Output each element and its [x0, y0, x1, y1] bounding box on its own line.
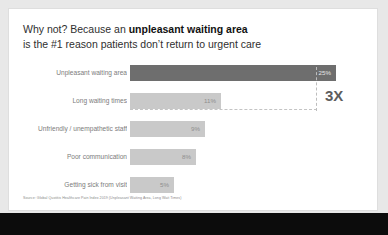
bar-label: Long waiting times: [9, 93, 127, 109]
callout-multiplier-label: 3X: [325, 87, 343, 104]
bar-segment[interactable]: 5%: [130, 177, 174, 193]
bar-track: 9%: [130, 121, 205, 137]
slide-card: Why not? Because an unpleasant waiting a…: [8, 8, 378, 211]
bar-label: Unfriendly / unempathetic staff: [9, 121, 127, 137]
bar-track: 11%: [130, 93, 221, 109]
bar-value-label: 11%: [204, 93, 216, 109]
bar-track: 5%: [130, 177, 174, 193]
bar-segment[interactable]: 8%: [130, 149, 196, 165]
table-row: Unpleasant waiting area 25%: [9, 65, 379, 91]
bar-track: 8%: [130, 149, 196, 165]
bar-label: Unpleasant waiting area: [9, 65, 127, 81]
table-row: Poor communication 8%: [9, 149, 379, 175]
bar-segment[interactable]: 9%: [130, 121, 205, 137]
letterbox-band: [0, 213, 388, 235]
source-note: Source: Global Quotitis Healthcare Pain …: [23, 196, 181, 200]
title-line-1: Why not? Because an unpleasant waiting a…: [23, 22, 353, 37]
bar-track: 25%: [130, 65, 336, 81]
bar-label: Poor communication: [9, 149, 127, 165]
bar-value-label: 9%: [191, 121, 200, 137]
bar-label: Getting sick from visit: [9, 177, 127, 193]
page-title: Why not? Because an unpleasant waiting a…: [23, 22, 353, 51]
bar-chart: Unpleasant waiting area 25% Long waiting…: [9, 65, 379, 195]
bar-segment[interactable]: 25%: [130, 65, 336, 81]
title-line-2: is the #1 reason patients don’t return t…: [23, 37, 353, 52]
title-emphasis-text: unpleasant waiting area: [129, 23, 248, 35]
bar-value-label: 5%: [160, 177, 169, 193]
callout-vertical-dashed-line: [316, 67, 317, 111]
callout-horizontal-dashed-line: [130, 109, 317, 110]
title-lead-text: Why not? Because an: [23, 23, 129, 35]
bar-value-label: 8%: [182, 149, 191, 165]
bar-segment[interactable]: 11%: [130, 93, 221, 109]
bar-value-label: 25%: [319, 65, 331, 81]
table-row: Long waiting times 11%: [9, 93, 379, 119]
slide-image: Why not? Because an unpleasant waiting a…: [0, 0, 388, 235]
table-row: Unfriendly / unempathetic staff 9%: [9, 121, 379, 147]
